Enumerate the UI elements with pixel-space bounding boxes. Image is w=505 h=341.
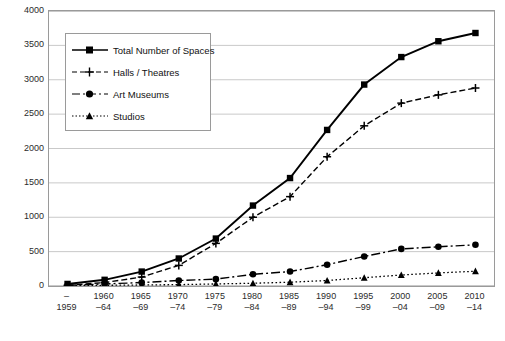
y-tick-label: 4000 [2,5,44,15]
y-tick-label: 1500 [2,177,44,187]
y-tick-label: 0 [2,280,44,290]
legend-key-triangle-icon [70,109,110,123]
y-tick-label: 3500 [2,39,44,49]
legend-key-square-icon [70,43,110,57]
legend-item-art-museums: Art Museums [70,83,210,105]
legend-key-plus-icon [70,65,110,79]
legend-label-studios: Studios [113,111,145,122]
legend-label-halls-theatres: Halls / Theatres [113,67,179,78]
legend-label-art-museums: Art Museums [113,89,169,100]
x-tick-label: 2010–14 [451,291,497,312]
legend-item-studios: Studios [70,105,210,127]
chart-legend: Total Number of Spaces Halls / Theatres … [65,33,211,131]
chart-container: 05001000150020002500300035004000 –195919… [0,0,505,341]
legend-label-total-number-of-spaces: Total Number of Spaces [113,45,214,56]
legend-item-total-number-of-spaces: Total Number of Spaces [70,39,210,61]
y-tick-label: 2500 [2,108,44,118]
legend-item-halls-theatres: Halls / Theatres [70,61,210,83]
y-tick-label: 3000 [2,74,44,84]
y-tick-label: 2000 [2,143,44,153]
y-tick-label: 1000 [2,211,44,221]
y-tick-label: 500 [2,246,44,256]
legend-key-circle-icon [70,87,110,101]
